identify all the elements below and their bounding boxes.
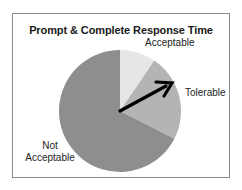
label-acceptable: Acceptable (145, 37, 194, 49)
label-not-acceptable: Not Acceptable (22, 140, 78, 164)
label-not-line1: Not (22, 140, 78, 152)
label-tolerable: Tolerable (185, 87, 226, 99)
label-not-line2: Acceptable (22, 152, 78, 164)
